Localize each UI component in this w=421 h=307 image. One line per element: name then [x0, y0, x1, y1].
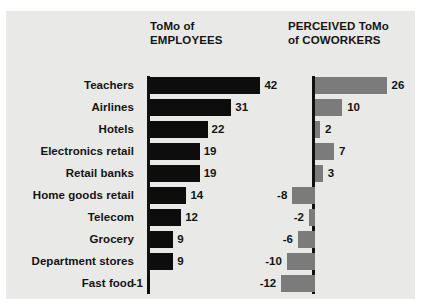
category-label: Hotels: [6, 119, 134, 141]
bar-coworkers: [315, 99, 343, 116]
bar-coworkers: [315, 143, 334, 160]
bar-value-employees: 9: [177, 251, 183, 273]
bar-employees: [150, 187, 187, 204]
bar-value-coworkers: 2: [325, 119, 331, 141]
category-label: Grocery: [6, 229, 134, 251]
bar-coworkers: [287, 253, 315, 270]
bar-value-employees: 9: [177, 229, 183, 251]
bar-employees: [150, 209, 182, 226]
category-label: Home goods retail: [6, 185, 134, 207]
bar-value-employees: 12: [185, 207, 198, 229]
bar-value-employees: 31: [235, 97, 248, 119]
bar-value-coworkers: -10: [242, 251, 282, 273]
chart-row: Hotels222: [6, 119, 415, 141]
bar-coworkers: [292, 187, 314, 204]
bar-value-coworkers: 26: [392, 75, 405, 97]
bar-employees: [150, 165, 200, 182]
bar-value-employees: 14: [190, 185, 203, 207]
chart-row: Retail banks193: [6, 163, 415, 185]
category-label: Department stores: [6, 251, 134, 273]
bar-coworkers: [281, 275, 314, 292]
category-label: Teachers: [6, 75, 134, 97]
top-cut-text-strip: ••––: [0, 0, 421, 10]
bar-value-coworkers: 7: [339, 141, 345, 163]
bar-coworkers: [298, 231, 315, 248]
category-label: Retail banks: [6, 163, 134, 185]
chart-row: Telecom12-2: [6, 207, 415, 229]
category-label: Electronics retail: [6, 141, 134, 163]
chart-panel: ToMo of EMPLOYEES PERCEIVED ToMo of COWO…: [6, 11, 415, 299]
bar-value-coworkers: -6: [253, 229, 293, 251]
bar-value-coworkers: -8: [247, 185, 287, 207]
bar-coworkers: [309, 209, 315, 226]
bar-value-employees: 22: [212, 119, 225, 141]
cut-text-fragment: –: [300, 0, 305, 1]
chart-row: Airlines3110: [6, 97, 415, 119]
bar-employees: [147, 275, 150, 292]
category-label: Airlines: [6, 97, 134, 119]
bar-value-coworkers: 10: [347, 97, 360, 119]
bar-employees: [150, 231, 174, 248]
chart-figure: ••–– ToMo of EMPLOYEES PERCEIVED ToMo of…: [0, 0, 421, 307]
bar-employees: [150, 253, 174, 270]
bar-employees: [150, 99, 232, 116]
bar-value-coworkers: 3: [328, 163, 334, 185]
bar-value-employees: -1: [103, 273, 143, 295]
bar-value-coworkers: -12: [236, 273, 276, 295]
bar-value-employees: 19: [204, 163, 217, 185]
bar-employees: [150, 77, 261, 94]
plot-area: Teachers4226Airlines3110Hotels222Electro…: [6, 11, 415, 299]
chart-row: Fast food-1-12: [6, 273, 415, 295]
bar-coworkers: [315, 121, 321, 138]
bar-coworkers: [315, 165, 323, 182]
bar-value-employees: 19: [204, 141, 217, 163]
category-label: Telecom: [6, 207, 134, 229]
chart-row: Home goods retail14-8: [6, 185, 415, 207]
cut-text-fragment: •: [24, 0, 27, 1]
bar-value-coworkers: -2: [264, 207, 304, 229]
cut-text-fragment: •: [108, 0, 111, 1]
bar-value-employees: 42: [264, 75, 277, 97]
bar-employees: [150, 121, 208, 138]
chart-row: Electronics retail197: [6, 141, 415, 163]
cut-text-fragment: –: [258, 0, 263, 1]
chart-row: Teachers4226: [6, 75, 415, 97]
bar-coworkers: [315, 77, 387, 94]
chart-row: Department stores9-10: [6, 251, 415, 273]
bar-employees: [150, 143, 200, 160]
chart-row: Grocery9-6: [6, 229, 415, 251]
